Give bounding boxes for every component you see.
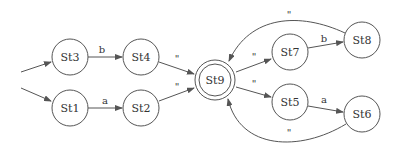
edge-st9-st5: " (236, 78, 271, 97)
edge-label: " (175, 81, 180, 92)
start-arrow-st3 (21, 62, 51, 72)
state-label: St8 (353, 34, 372, 47)
state-st5: St5 (272, 84, 308, 120)
edge-label: b (99, 44, 105, 55)
state-label: St3 (61, 51, 80, 64)
edge-label: " (287, 9, 292, 20)
state-label: St2 (132, 102, 151, 115)
edge-label: " (287, 127, 292, 138)
state-label: St4 (132, 51, 151, 64)
state-label: St1 (61, 102, 80, 115)
state-label: St7 (281, 46, 300, 59)
state-st2: St2 (123, 90, 159, 126)
fsa-diagram: b a " " " " b a " " (0, 0, 401, 152)
edge-st1-st2: a (88, 95, 122, 108)
edge-st5-st6: a (308, 94, 343, 112)
edge-st9-st7: " (236, 51, 271, 72)
edge-st2-st9: " (159, 81, 194, 101)
edge-label: " (252, 51, 257, 62)
edge-label: b (321, 33, 327, 44)
edge-st4-st9: " (159, 53, 194, 74)
state-st1: St1 (52, 90, 88, 126)
state-st8: St8 (344, 22, 380, 58)
start-arrow-st1 (21, 88, 51, 101)
edge-label: a (102, 95, 108, 106)
edge-label: " (252, 78, 257, 89)
state-label: St6 (353, 108, 372, 121)
state-st9-accepting: St9 (195, 60, 235, 100)
state-label: St5 (281, 96, 300, 109)
state-st7: St7 (272, 34, 308, 70)
state-label: St9 (206, 74, 225, 87)
edge-st3-st4: b (88, 44, 122, 57)
edge-label: " (175, 53, 180, 64)
state-st6: St6 (344, 96, 380, 132)
state-st3: St3 (52, 39, 88, 75)
edge-st7-st8: b (308, 33, 343, 48)
edge-label: a (321, 94, 327, 105)
state-st4: St4 (123, 39, 159, 75)
